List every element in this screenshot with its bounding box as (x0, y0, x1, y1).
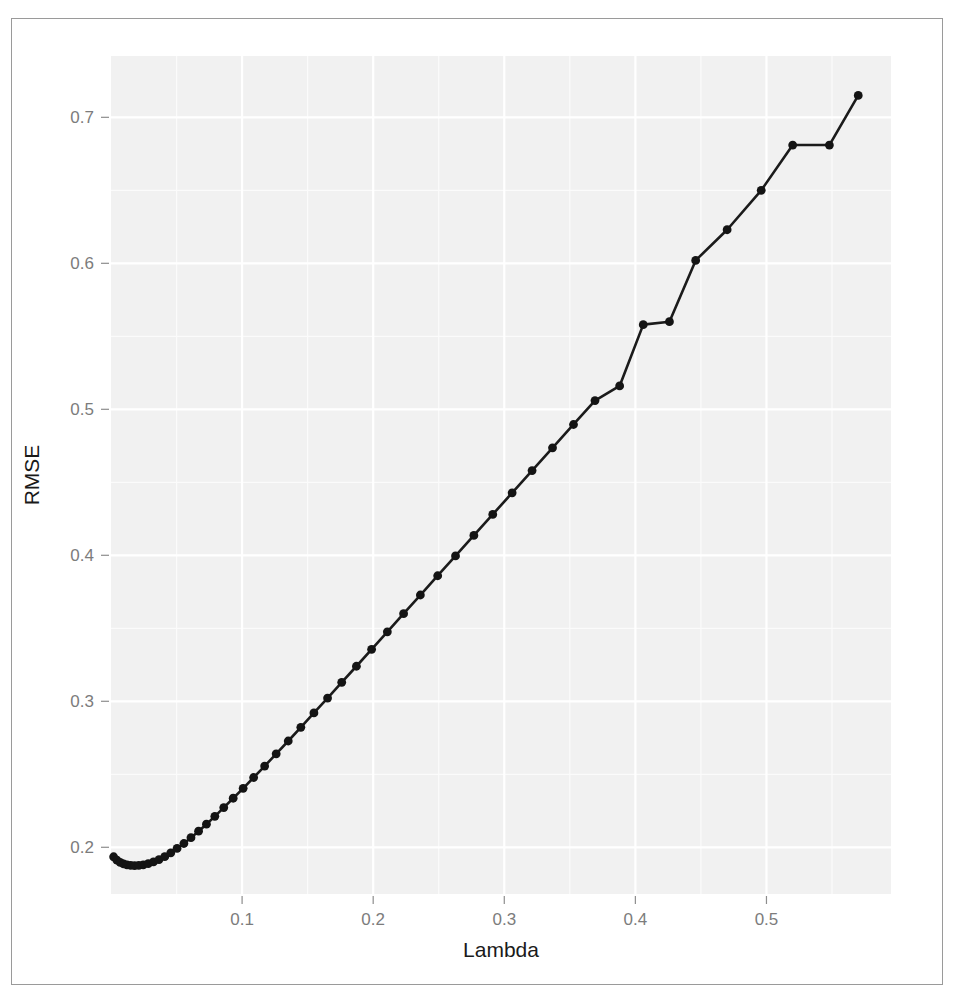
data-point (854, 91, 863, 100)
data-point (508, 488, 517, 497)
data-point (260, 762, 269, 771)
y-tick-label: 0.7 (70, 108, 94, 127)
data-point (229, 794, 238, 803)
data-point (352, 662, 361, 671)
data-point (310, 709, 319, 718)
data-point (194, 827, 203, 836)
data-point (337, 678, 346, 687)
data-point (383, 627, 392, 636)
data-point (367, 645, 376, 654)
data-point (284, 737, 293, 746)
data-point (615, 382, 624, 391)
data-point (249, 773, 258, 782)
x-tick-label: 0.2 (361, 910, 385, 929)
data-point (757, 186, 766, 195)
data-point (528, 466, 537, 475)
data-point (399, 609, 408, 618)
x-axis-ticks (242, 896, 766, 904)
chart-plot-area[interactable]: 0.10.20.30.40.5 0.20.30.40.50.60.7 Lambd… (12, 19, 944, 986)
data-point (569, 420, 578, 429)
x-tick-label: 0.3 (492, 910, 516, 929)
data-point (825, 141, 834, 150)
data-point (272, 749, 281, 758)
data-point (548, 443, 557, 452)
y-tick-label: 0.5 (70, 400, 94, 419)
x-tick-label: 0.4 (624, 910, 648, 929)
y-axis-tick-labels: 0.20.30.40.50.60.7 (70, 108, 94, 857)
data-point (179, 839, 188, 848)
x-axis-tick-labels: 0.10.20.30.40.5 (230, 910, 778, 929)
y-tick-label: 0.3 (70, 692, 94, 711)
data-point (665, 317, 674, 326)
data-point (788, 141, 797, 150)
data-point (296, 723, 305, 732)
data-point (187, 833, 196, 842)
data-point (591, 396, 600, 405)
data-point (691, 256, 700, 265)
x-tick-label: 0.5 (755, 910, 779, 929)
data-point (416, 591, 425, 600)
data-point (210, 812, 219, 821)
data-point (639, 320, 648, 329)
panel-background (111, 56, 891, 894)
x-tick-label: 0.1 (230, 910, 254, 929)
rmse-vs-lambda-chart[interactable]: 0.10.20.30.40.5 0.20.30.40.50.60.7 Lambd… (12, 19, 944, 986)
data-point (433, 571, 442, 580)
y-tick-label: 0.4 (70, 546, 94, 565)
y-axis-title: RMSE (20, 445, 43, 506)
y-tick-label: 0.6 (70, 254, 94, 273)
y-tick-label: 0.2 (70, 838, 94, 857)
data-point (239, 784, 248, 793)
data-point (219, 803, 228, 812)
y-axis-ticks (101, 117, 109, 847)
data-point (202, 820, 211, 829)
data-point (451, 551, 460, 560)
data-point (723, 225, 732, 234)
data-point (469, 531, 478, 540)
x-axis-title: Lambda (463, 938, 539, 961)
figure-frame: 0.10.20.30.40.5 0.20.30.40.50.60.7 Lambd… (11, 18, 943, 985)
data-point (323, 694, 332, 703)
data-point (488, 510, 497, 519)
